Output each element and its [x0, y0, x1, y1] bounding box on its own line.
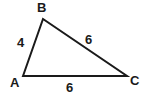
triangle-outline [23, 19, 127, 76]
side-length-label-bc: 6 [85, 33, 92, 46]
vertex-label-c: C [130, 74, 139, 87]
geometry-diagram: B A C 4 6 6 [0, 0, 151, 98]
side-length-label-ac: 6 [66, 81, 73, 94]
vertex-label-b: B [37, 1, 46, 14]
side-length-label-ab: 4 [17, 36, 24, 49]
vertex-label-a: A [10, 76, 19, 89]
